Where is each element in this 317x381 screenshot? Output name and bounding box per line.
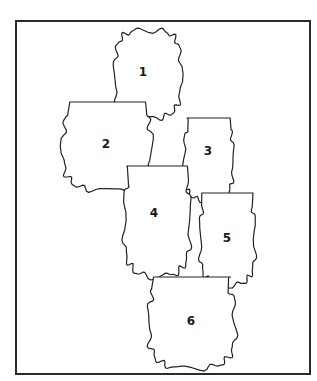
- shape-label: 2: [102, 137, 110, 151]
- plot-shape-4: 4: [122, 166, 192, 280]
- shape-label: 4: [150, 206, 158, 220]
- plot-shape-3: 3: [183, 118, 235, 203]
- shape-label: 1: [139, 65, 147, 79]
- scalloped-outline: [122, 166, 192, 280]
- plot-diagram: 123456: [0, 0, 317, 381]
- shape-label: 6: [187, 314, 195, 328]
- plot-shape-6: 6: [147, 277, 238, 371]
- scalloped-outline: [183, 118, 235, 203]
- plot-shapes-group: 123456: [60, 28, 256, 371]
- shape-label: 3: [204, 144, 212, 158]
- shape-label: 5: [223, 231, 231, 245]
- plot-shape-5: 5: [199, 193, 257, 288]
